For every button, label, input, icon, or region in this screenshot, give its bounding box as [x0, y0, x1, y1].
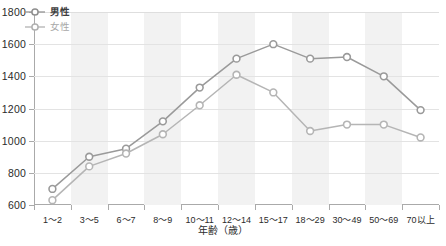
series-line — [52, 75, 420, 200]
legend: 男性 女性 — [24, 6, 70, 33]
data-point[interactable] — [86, 163, 93, 170]
circle-marker-icon — [24, 21, 46, 33]
data-point[interactable] — [417, 134, 424, 141]
data-point[interactable] — [307, 55, 314, 62]
y-axis-label: 800 — [8, 167, 26, 179]
data-point[interactable] — [233, 55, 240, 62]
x-axis-tick — [365, 205, 366, 210]
data-point[interactable] — [49, 197, 56, 204]
data-point[interactable] — [380, 73, 387, 80]
legend-label-female: 女性 — [50, 21, 70, 33]
data-point[interactable] — [417, 107, 424, 114]
series-男性 — [49, 41, 424, 193]
x-axis-tick — [34, 205, 35, 210]
x-axis-title: 年齢（歳） — [0, 222, 446, 237]
y-axis-label: 1000 — [2, 135, 26, 147]
legend-label-male: 男性 — [50, 6, 70, 18]
y-axis-label: 1400 — [2, 70, 26, 82]
y-axis-label: 1800 — [2, 6, 26, 18]
data-point[interactable] — [344, 54, 351, 61]
data-point[interactable] — [233, 71, 240, 78]
data-point[interactable] — [196, 102, 203, 109]
legend-item-female[interactable]: 女性 — [24, 21, 70, 33]
circle-marker-icon — [24, 6, 46, 18]
x-axis-tick — [292, 205, 293, 210]
plot-area: 60080010001200140016001800 1〜23〜56〜78〜91… — [34, 12, 439, 205]
series-女性 — [49, 71, 424, 203]
x-axis-tick — [71, 205, 72, 210]
legend-item-male[interactable]: 男性 — [24, 6, 70, 18]
data-point[interactable] — [380, 121, 387, 128]
x-axis-tick — [329, 205, 330, 210]
x-axis-tick — [402, 205, 403, 210]
x-axis-tick — [144, 205, 145, 210]
data-point[interactable] — [86, 153, 93, 160]
chart-container: 60080010001200140016001800 1〜23〜56〜78〜91… — [0, 0, 446, 246]
x-axis-tick — [181, 205, 182, 210]
series-line — [52, 44, 420, 189]
x-axis-tick — [439, 205, 440, 210]
y-axis-label: 1200 — [2, 103, 26, 115]
data-point[interactable] — [159, 131, 166, 138]
data-point[interactable] — [344, 121, 351, 128]
data-point[interactable] — [123, 150, 130, 157]
x-axis-tick — [255, 205, 256, 210]
data-point[interactable] — [196, 84, 203, 91]
data-point[interactable] — [159, 118, 166, 125]
y-axis-label: 1600 — [2, 38, 26, 50]
data-point[interactable] — [270, 89, 277, 96]
x-axis-tick — [108, 205, 109, 210]
y-axis-label: 600 — [8, 199, 26, 211]
data-point[interactable] — [49, 186, 56, 193]
series-layer — [34, 12, 439, 205]
x-axis-tick — [218, 205, 219, 210]
data-point[interactable] — [307, 128, 314, 135]
data-point[interactable] — [270, 41, 277, 48]
